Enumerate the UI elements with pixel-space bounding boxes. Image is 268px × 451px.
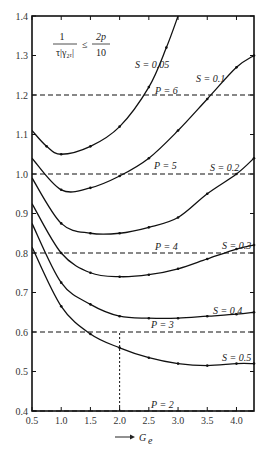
data-point xyxy=(177,317,180,320)
label-s-005: S = 0.05 xyxy=(135,59,169,70)
data-point xyxy=(89,187,92,190)
y-tick-label: 1.1 xyxy=(16,129,29,140)
x-tick-label: 3.5 xyxy=(201,415,214,426)
x-tick-label: 2.5 xyxy=(143,415,156,426)
data-point xyxy=(60,252,63,255)
x-tick-label: 2.0 xyxy=(113,415,126,426)
y-tick-label: 0.6 xyxy=(16,327,29,338)
data-point xyxy=(165,46,168,49)
data-point xyxy=(118,232,121,235)
data-point xyxy=(118,315,121,318)
data-point xyxy=(235,173,238,176)
x-tick-label: 1.0 xyxy=(55,415,68,426)
data-point xyxy=(177,216,180,219)
data-point xyxy=(177,129,180,132)
data-point xyxy=(89,303,92,306)
formula-den-left: τ|γ₂ᵣ| xyxy=(56,47,74,58)
x-tick-label: 3.0 xyxy=(172,415,185,426)
x-tick-label: 4.0 xyxy=(230,415,243,426)
arrow-right-icon xyxy=(130,435,135,440)
data-point xyxy=(206,258,209,261)
data-point xyxy=(206,315,209,318)
label-p-3: P = 3 xyxy=(150,319,174,330)
y-tick-label: 1.4 xyxy=(16,11,29,22)
x-axis-label: G xyxy=(139,432,146,443)
data-point xyxy=(206,364,209,367)
x-tick-label: 1.5 xyxy=(84,415,97,426)
y-tick-label: 1.2 xyxy=(16,90,29,101)
data-point xyxy=(60,305,63,308)
data-point xyxy=(60,189,63,192)
data-point xyxy=(118,275,121,278)
data-point xyxy=(148,157,151,160)
formula-relation: ≤ xyxy=(82,39,88,50)
curve-labels: S = 0.05 S = 0.1 S = 0.2 S = 0.3 S = 0.4… xyxy=(135,59,251,410)
data-point xyxy=(118,175,121,178)
x-axis-label-sub: e xyxy=(148,435,153,446)
y-tick-label: 0.4 xyxy=(16,406,29,417)
formula-num-left: 1 xyxy=(60,31,65,42)
y-tick-label: 1.0 xyxy=(16,169,29,180)
label-p-4: P = 4 xyxy=(154,241,178,252)
data-point xyxy=(89,232,92,235)
y-tick-label: 1.3 xyxy=(16,50,29,61)
data-point xyxy=(118,125,121,128)
data-point xyxy=(60,222,63,225)
formula-annotation: 1 τ|γ₂ᵣ| ≤ 2p 10 xyxy=(53,31,110,58)
label-s-01: S = 0.1 xyxy=(196,73,225,84)
label-s-05: S = 0.5 xyxy=(222,352,251,363)
x-tick-label: 0.5 xyxy=(26,415,39,426)
reference-lines xyxy=(32,95,254,411)
y-tick-label: 0.7 xyxy=(16,287,29,298)
curve-line xyxy=(32,204,254,277)
data-point xyxy=(89,145,92,148)
data-point xyxy=(206,192,209,195)
y-tick-label: 0.5 xyxy=(16,366,29,377)
x-axis-title: G e xyxy=(115,432,153,446)
data-point xyxy=(60,153,63,156)
y-tick-label: 0.8 xyxy=(16,248,29,259)
data-point xyxy=(89,333,92,336)
label-p-6: P = 6 xyxy=(154,85,178,96)
data-point xyxy=(60,281,63,284)
formula-num-right: 2p xyxy=(96,31,106,42)
label-p-5: P = 5 xyxy=(153,160,177,171)
data-point xyxy=(177,268,180,271)
data-point xyxy=(148,273,151,276)
data-point xyxy=(206,98,209,101)
data-point xyxy=(89,271,92,274)
data-point xyxy=(45,145,48,148)
label-s-02: S = 0.2 xyxy=(210,162,239,173)
data-point xyxy=(148,226,151,229)
chart: 0.51.01.52.02.53.03.54.00.40.50.60.70.80… xyxy=(0,0,268,451)
data-point xyxy=(235,66,238,69)
label-s-03: S = 0.3 xyxy=(222,240,251,251)
formula-den-right: 10 xyxy=(96,47,106,58)
label-p-2: P = 2 xyxy=(150,399,174,410)
data-point xyxy=(148,356,151,359)
data-point xyxy=(148,317,151,320)
data-point xyxy=(177,362,180,365)
data-point xyxy=(148,86,151,89)
data-point xyxy=(118,347,121,350)
y-tick-label: 0.9 xyxy=(16,208,29,219)
label-s-04: S = 0.4 xyxy=(213,305,242,316)
